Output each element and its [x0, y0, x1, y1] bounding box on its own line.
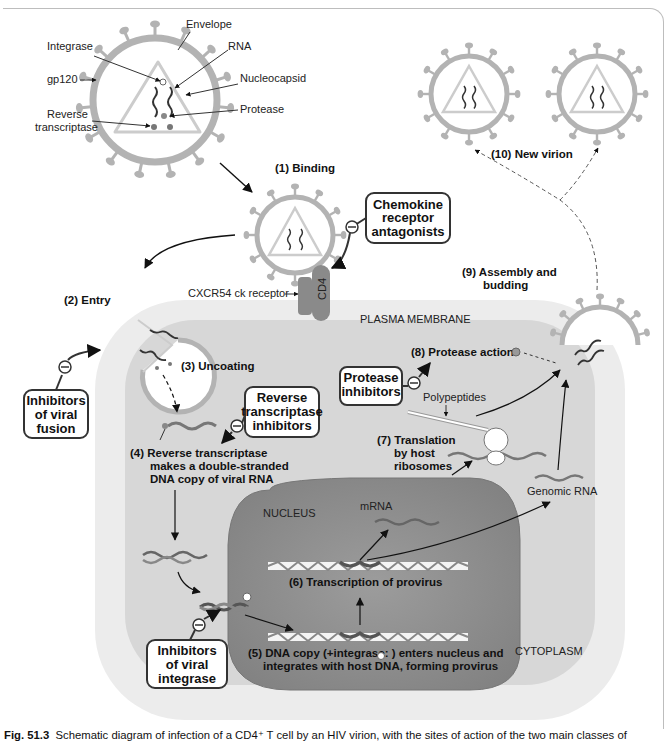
rt-line3: inhibitors: [252, 418, 311, 433]
label-cxcr-receptor: CXCR54 ck receptor: [188, 287, 289, 299]
protease-line1: Protease: [344, 370, 399, 385]
fusion-line1: Inhibitors: [26, 393, 85, 408]
ribosome-small: [487, 451, 505, 465]
label-rna: RNA: [228, 40, 252, 52]
label-genomic-rna: Genomic RNA: [527, 485, 598, 497]
label-protease: Protease: [240, 103, 284, 115]
label-polypeptides: Polypeptides: [423, 391, 486, 403]
protease-dot: [512, 348, 520, 356]
integrase-dot: [243, 593, 251, 601]
fusion-line2: of viral: [35, 407, 78, 422]
step-7-line3: ribosomes: [394, 460, 452, 472]
step-7-translation: (7) Translation: [377, 434, 456, 446]
rt-line2: transcriptase: [241, 404, 323, 419]
step-5-line2: integrates with host DNA, forming provir…: [263, 660, 498, 672]
hiv-virion-diagram: [75, 21, 234, 179]
label-mrna: mRNA: [360, 500, 393, 512]
binding-virion: [244, 184, 347, 287]
step-6-transcription: (6) Transcription of provirus: [289, 576, 442, 588]
label-reverse-transcriptase: Reverse: [47, 108, 88, 120]
cxcr-receptor: [298, 277, 312, 315]
integrase-line2: of viral: [166, 657, 209, 672]
provirus-dna-upper: [268, 562, 468, 570]
step-2-entry: (2) Entry: [64, 294, 111, 306]
step-3-uncoating: (3) Uncoating: [181, 360, 254, 372]
integrase-symbol: [378, 653, 385, 660]
caption-text: Schematic diagram of infection of a CD4⁺…: [56, 729, 627, 741]
step-10-new-virion: (10) New virion: [491, 148, 573, 160]
step-7-line2: by host: [394, 447, 435, 459]
label-cd4: CD4: [316, 278, 328, 300]
step-9-line2: budding: [483, 279, 528, 291]
label-integrase: Integrase: [47, 40, 93, 52]
step-4-line2: makes a double-stranded: [150, 460, 289, 472]
step-4-reverse-transcription: (4) Reverse transcriptase: [130, 447, 267, 459]
figure-caption: Fig. 51.3 Schematic diagram of infection…: [4, 729, 666, 742]
label-plasma-membrane: PLASMA MEMBRANE: [360, 313, 471, 325]
step-5-integration: (5) DNA copy (+integrase: ) enters nucle…: [248, 647, 504, 659]
step-4-line3: DNA copy of viral RNA: [150, 473, 274, 485]
hiv-lifecycle-diagram: Envelope Integrase RNA gp120 Nucleocapsi…: [0, 0, 667, 730]
integrase-line3: integrase: [158, 671, 216, 686]
inhibitors-of-viral-fusion-box: Inhibitors of viral fusion: [24, 350, 100, 438]
label-nucleus: NUCLEUS: [263, 507, 316, 519]
integrase-line1: Inhibitors: [157, 643, 216, 658]
figure-number: Fig. 51.3: [4, 729, 49, 741]
step-1-binding: (1) Binding: [275, 162, 335, 174]
chemokine-line2: receptor: [382, 210, 434, 225]
label-cytoplasm: CYTOPLASM: [515, 645, 583, 657]
label-gp120: gp120: [47, 73, 78, 85]
rt-line1: Reverse: [257, 390, 308, 405]
new-virion-2: [546, 43, 649, 146]
label-envelope: Envelope: [186, 18, 232, 30]
protease-line2: inhibitors: [341, 384, 400, 399]
provirus-dna-lower: [268, 633, 468, 641]
step-9-assembly-budding: (9) Assembly and: [462, 266, 557, 278]
label-nucleocapsid: Nucleocapsid: [240, 72, 306, 84]
step-8-protease-action: (8) Protease action: [411, 346, 514, 358]
chemokine-line3: antagonists: [372, 224, 445, 239]
fusion-line3: fusion: [37, 421, 76, 436]
label-reverse-transcriptase-2: transcriptase: [35, 121, 98, 133]
new-virion-1: [418, 43, 521, 146]
chemokine-receptor-antagonists-box: Chemokine receptor antagonists: [332, 193, 450, 268]
